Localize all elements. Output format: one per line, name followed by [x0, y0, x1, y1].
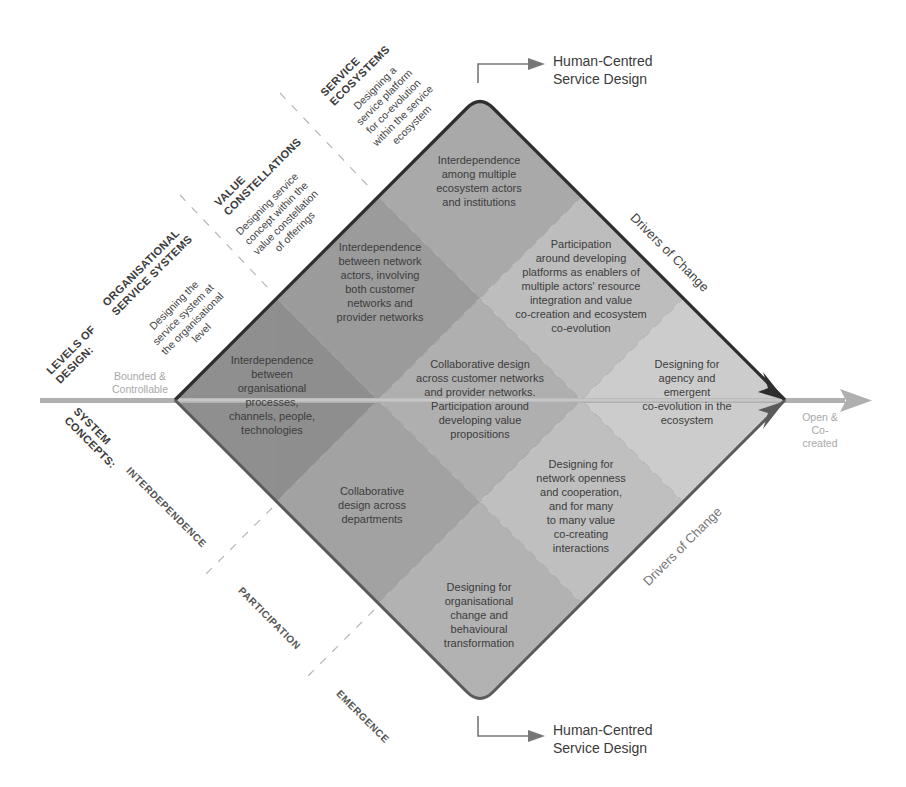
cell-vc-interdependence: Interdependence between network actors, … — [337, 240, 424, 324]
axis-left-label: Bounded & Controllable — [100, 370, 180, 396]
cell-eco-emergence: Designing for agency and emergent co-evo… — [642, 357, 731, 427]
hcsd-top-arrow-icon — [528, 58, 545, 70]
cell-org-participation: Collaborative design across departments — [338, 484, 406, 526]
hcsd-bottom-arrow — [478, 716, 530, 736]
cell-vc-participation: Collaborative design across customer net… — [416, 357, 544, 441]
hcsd-top-label: Human-Centred Service Design — [553, 52, 653, 88]
cell-vc-emergence: Designing for network openness and coope… — [536, 457, 625, 555]
cell-org-interdependence: Interdependence between organisational p… — [229, 353, 315, 437]
axis-right-label: Open & Co-created — [795, 411, 845, 450]
cell-eco-participation: Participation around developing platform… — [515, 237, 646, 335]
service-design-diagram: Interdependence between organisational p… — [0, 0, 906, 787]
hcsd-bottom-arrow-icon — [528, 730, 545, 742]
hcsd-bottom-label: Human-Centred Service Design — [553, 721, 653, 757]
hcsd-top-arrow — [478, 64, 530, 83]
cell-org-emergence: Designing for organisational change and … — [444, 580, 514, 650]
cell-eco-interdependence: Interdependence among multiple ecosystem… — [436, 153, 522, 209]
